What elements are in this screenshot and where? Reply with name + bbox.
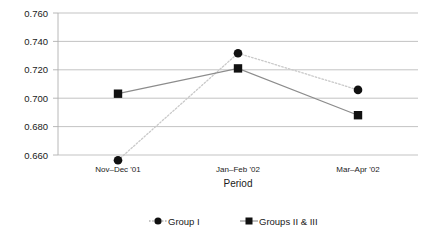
series-group-i-point-0 [114,156,123,165]
series-group-i-point-2 [354,86,363,95]
circle-marker-icon [154,217,161,224]
y-tick-label-0680: 0.680 [24,121,48,132]
series-groups-ii-iii-point-1 [234,64,242,72]
series-groups-ii-iii [114,64,362,119]
x-tick-label-1: Jan–Feb '02 [216,165,260,174]
legend-item-group-i: Group I [149,216,200,227]
legend-label-groups-ii-iii: Groups II & III [259,216,318,227]
legend-label-group-i: Group I [168,216,200,227]
chart-legend: Group I Groups II & III [149,216,318,227]
x-tick-label-0: Nov–Dec '01 [95,165,141,174]
series-groups-ii-iii-point-2 [354,111,362,119]
series-groups-ii-iii-point-0 [114,90,122,98]
series-group-i-point-1 [234,49,243,58]
y-tick-label-0700: 0.700 [24,93,48,104]
legend-item-groups-ii-iii: Groups II & III [240,216,318,227]
y-tick-labels: 0.760 0.740 0.720 0.700 0.680 0.660 [24,8,48,161]
y-axis [53,13,58,155]
gridlines-group [58,13,418,155]
x-axis-title: Period [224,178,253,189]
line-chart: 0.760 0.740 0.720 0.700 0.680 0.660 Nov–… [0,0,433,237]
y-tick-label-0740: 0.740 [24,36,48,47]
square-marker-icon [246,218,253,225]
y-tick-label-0720: 0.720 [24,64,48,75]
y-tick-label-0660: 0.660 [24,150,48,161]
chart-canvas: 0.760 0.740 0.720 0.700 0.680 0.660 Nov–… [0,0,433,237]
x-tick-label-2: Mar–Apr '02 [336,165,380,174]
x-tick-labels: Nov–Dec '01 Jan–Feb '02 Mar–Apr '02 [95,165,380,174]
y-tick-label-0760: 0.760 [24,8,48,19]
series-groups-ii-iii-line [118,68,358,115]
